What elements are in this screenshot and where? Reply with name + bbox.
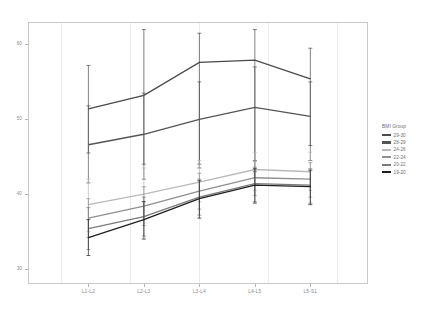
legend-swatch (382, 134, 391, 136)
legend-swatch (382, 149, 391, 151)
y-axis-tick-mark (25, 269, 28, 270)
legend-swatch (382, 164, 391, 166)
y-axis-tick-mark (25, 194, 28, 195)
legend-item-19-20[interactable]: 19-20 (382, 168, 432, 175)
legend: BMI Group 29-3028-2924-2622-2420-2219-20 (382, 124, 432, 176)
x-axis-tick-mark (144, 284, 145, 287)
y-axis-tick-label: 60 (4, 41, 22, 46)
y-axis-tick-label: 40 (4, 191, 22, 196)
data-series-layer (28, 22, 368, 284)
x-axis-tick-mark (88, 284, 89, 287)
y-axis-tick-label: 30 (4, 266, 22, 271)
legend-swatch (382, 141, 391, 143)
legend-label: 29-30 (394, 133, 406, 138)
legend-item-22-24[interactable]: 22-24 (382, 154, 432, 161)
legend-item-24-26[interactable]: 24-26 (382, 146, 432, 153)
legend-swatch (382, 171, 391, 173)
legend-label: 22-24 (394, 155, 406, 160)
legend-item-28-29[interactable]: 28-29 (382, 139, 432, 146)
legend-label: 28-29 (394, 140, 406, 145)
x-axis-tick-mark (310, 284, 311, 287)
x-axis-tick-mark (255, 284, 256, 287)
legend-swatch (382, 156, 391, 158)
y-axis-tick-label: 50 (4, 116, 22, 121)
x-axis-tick-label: L1-L2 (68, 289, 108, 294)
legend-item-20-22[interactable]: 20-22 (382, 161, 432, 168)
legend-title: BMI Group (382, 124, 432, 129)
y-axis-tick-mark (25, 44, 28, 45)
legend-item-29-30[interactable]: 29-30 (382, 132, 432, 139)
x-axis-tick-mark (199, 284, 200, 287)
x-axis-tick-label: L2-L3 (124, 289, 164, 294)
legend-label: 24-26 (394, 147, 406, 152)
chart-container: 30405060 L1-L2L2-L3L3-L4L4-L5L5-S1 BMI G… (0, 0, 434, 312)
x-axis-tick-label: L5-S1 (290, 289, 330, 294)
x-axis-tick-label: L4-L5 (235, 289, 275, 294)
y-axis-tick-mark (25, 119, 28, 120)
legend-label: 20-22 (394, 162, 406, 167)
legend-label: 19-20 (394, 170, 406, 175)
series-19-20 (86, 169, 312, 256)
x-axis-tick-label: L3-L4 (179, 289, 219, 294)
